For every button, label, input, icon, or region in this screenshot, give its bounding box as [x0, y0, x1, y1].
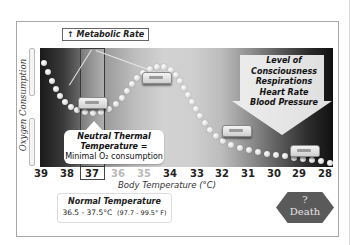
tick-32: 32 [212, 168, 232, 179]
item-consciousness: Consciousness [236, 67, 332, 78]
tick-31: 31 [238, 168, 258, 179]
arrow-up-icon [29, 48, 35, 96]
y-axis-title: Oxygen Consumption [18, 50, 28, 160]
decreasing-vitals-list: Level of Consciousness Respirations Hear… [236, 56, 332, 109]
thermometer-icon [290, 145, 320, 157]
death-label: Death [276, 206, 334, 218]
thermometer-icon [78, 97, 108, 109]
tick-35: 35 [134, 168, 154, 179]
neutral-title-line1: Neutral Thermal [64, 132, 164, 142]
normal-temperature-range: 36.5 - 37.5°C (97.7 - 99.5° F) [58, 207, 171, 219]
neutral-description: Minimal O₂ consumption [64, 152, 164, 162]
metabolic-rate-label: ↑ Metabolic Rate [62, 28, 149, 41]
arrow-down-icon [29, 118, 35, 166]
item-respirations: Respirations [236, 77, 332, 88]
tick-38: 38 [57, 168, 77, 179]
normal-temperature-title: Normal Temperature [58, 196, 171, 207]
neutral-title-line2: Temperature = [64, 142, 164, 152]
normal-temperature-box: Normal Temperature 36.5 - 37.5°C (97.7 -… [57, 193, 172, 223]
item-blood-pressure: Blood Pressure [236, 98, 332, 109]
tick-36: 36 [108, 168, 128, 179]
range-fahrenheit: (97.7 - 99.5° F) [117, 209, 167, 217]
tick-28: 28 [315, 168, 335, 179]
tick-39: 39 [31, 168, 51, 179]
neutral-thermal-callout: Neutral Thermal Temperature = Minimal O₂… [64, 130, 164, 164]
x-axis-title: Body Temperature (°C) [118, 180, 216, 190]
tick-37-highlight [80, 167, 105, 180]
thermometer-icon [142, 72, 172, 84]
tick-30: 30 [264, 168, 284, 179]
tick-33: 33 [187, 168, 207, 179]
page-divider [349, 0, 350, 245]
range-celsius: 36.5 - 37.5°C [62, 208, 112, 217]
tick-29: 29 [289, 168, 309, 179]
item-level-of: Level of [236, 56, 332, 67]
death-hexagon: ? Death [276, 192, 334, 223]
item-heart-rate: Heart Rate [236, 88, 332, 99]
tick-34: 34 [160, 168, 180, 179]
